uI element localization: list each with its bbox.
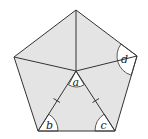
label-d: d (121, 53, 128, 66)
label-b: b (46, 119, 53, 132)
pentagon-diagram: a b c d (0, 0, 148, 139)
label-c: c (101, 119, 107, 132)
label-a: a (73, 76, 80, 89)
